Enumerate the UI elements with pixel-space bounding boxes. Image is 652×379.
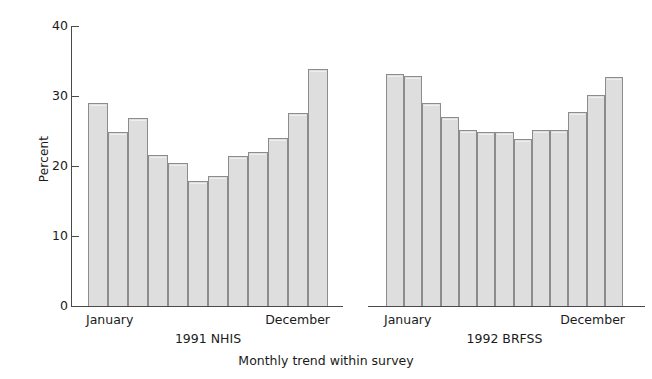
x-axis-line-nhis <box>71 306 343 307</box>
bar <box>422 103 440 306</box>
bar <box>128 118 148 306</box>
y-tick-mark <box>72 26 79 27</box>
bar <box>495 132 513 306</box>
bar <box>248 152 268 306</box>
bar <box>550 130 568 306</box>
bar <box>532 130 550 306</box>
bar <box>188 181 208 306</box>
bar <box>108 132 128 306</box>
y-tick-label: 0 <box>20 299 68 313</box>
bar <box>587 95 605 306</box>
bar <box>228 156 248 306</box>
bar-group-brfss <box>386 26 623 306</box>
bar <box>308 69 328 306</box>
bar <box>168 163 188 306</box>
group-caption-brfss: 1992 BRFSS <box>386 331 623 346</box>
bar <box>459 130 477 306</box>
y-tick-mark <box>72 166 79 167</box>
bar-group-nhis <box>88 26 328 306</box>
bars-nhis <box>88 26 328 306</box>
bar <box>148 155 168 306</box>
x-label-december-brfss: December <box>560 312 625 327</box>
x-label-january-nhis: January <box>86 312 133 327</box>
bar <box>514 139 532 306</box>
x-axis-line-brfss <box>368 306 645 307</box>
x-endlabels-brfss: January December <box>384 312 625 328</box>
bar <box>605 77 623 306</box>
y-tick-label: 10 <box>20 229 68 243</box>
y-tick-label: 20 <box>20 159 68 173</box>
y-tick-mark <box>72 236 79 237</box>
bar <box>477 132 495 306</box>
bar <box>568 112 586 306</box>
bar <box>404 76 422 306</box>
y-tick-label: 30 <box>20 89 68 103</box>
group-caption-nhis: 1991 NHIS <box>88 331 328 346</box>
bar <box>441 117 459 306</box>
x-axis-label: Monthly trend within survey <box>0 353 652 368</box>
bar <box>386 74 404 306</box>
bar <box>208 176 228 306</box>
bars-brfss <box>386 26 623 306</box>
bar <box>88 103 108 306</box>
bar <box>268 138 288 306</box>
x-label-january-brfss: January <box>384 312 431 327</box>
bar <box>288 113 308 306</box>
y-tick-label: 40 <box>20 19 68 33</box>
x-label-december-nhis: December <box>265 312 330 327</box>
bar-chart-figure: Percent 403020100 January December Janua… <box>0 0 652 379</box>
x-endlabels-nhis: January December <box>86 312 330 328</box>
y-tick-mark <box>72 96 79 97</box>
